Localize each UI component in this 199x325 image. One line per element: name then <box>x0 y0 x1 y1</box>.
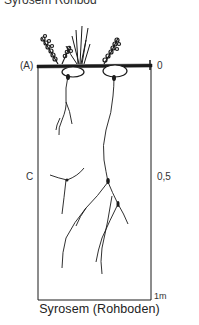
figure-caption: Syrosem (Rohboden) <box>0 302 199 316</box>
plant-right <box>103 38 121 64</box>
depth-label-0: 0 <box>157 61 163 71</box>
horizon-label-a: (A) <box>20 61 33 71</box>
root-nodes <box>66 74 120 207</box>
depth-label-0-5: 0,5 <box>157 172 171 182</box>
plant-left <box>41 35 58 65</box>
depth-label-1m: 1m <box>154 292 167 301</box>
plant-grass <box>66 26 90 64</box>
soil-profile-drawing <box>0 0 199 325</box>
roots <box>50 76 128 274</box>
horizon-label-c: C <box>26 172 33 182</box>
profile-frame <box>38 66 151 300</box>
surface-layer <box>37 60 152 77</box>
